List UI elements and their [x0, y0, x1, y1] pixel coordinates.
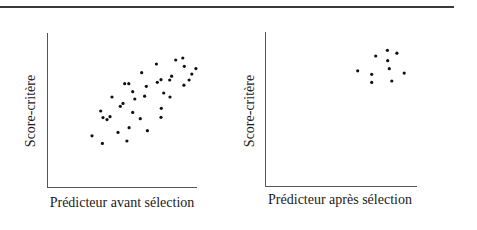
data-point [133, 97, 136, 100]
data-point [121, 102, 124, 105]
data-point [168, 78, 171, 81]
scatter-plot-before-selection [47, 33, 197, 188]
data-point [170, 75, 173, 78]
data-point [90, 134, 93, 137]
data-point [390, 79, 393, 82]
data-point [183, 65, 186, 68]
data-point [356, 69, 359, 72]
data-point [110, 95, 113, 98]
data-point [156, 81, 159, 84]
data-point [386, 49, 389, 52]
data-point [116, 131, 119, 134]
data-point [403, 72, 406, 75]
scatter-plot-after-selection [265, 32, 417, 187]
plot-area-after [265, 32, 417, 187]
y-axis-label-after: Score-critère [242, 75, 258, 147]
data-point [174, 58, 177, 61]
data-point [194, 67, 197, 70]
data-point [119, 105, 122, 108]
data-point [388, 67, 391, 70]
top-rule [0, 6, 454, 8]
data-point [101, 142, 104, 145]
data-point [370, 81, 373, 84]
data-point [105, 118, 108, 121]
data-point [131, 90, 134, 93]
data-point [190, 73, 193, 76]
data-point [127, 82, 130, 85]
data-point [128, 126, 131, 129]
data-point [162, 91, 165, 94]
data-point [182, 84, 185, 87]
data-point [159, 116, 162, 119]
data-point [139, 117, 142, 120]
data-point [159, 78, 162, 81]
x-axis-label-after: Prédicteur après sélection [268, 192, 412, 208]
data-point [181, 56, 184, 59]
data-point [370, 73, 373, 76]
data-point [395, 52, 398, 55]
data-point [125, 139, 128, 142]
data-point [155, 62, 158, 65]
data-point [143, 95, 146, 98]
data-points [356, 49, 406, 84]
y-axis-label-before: Score-critère [23, 75, 39, 147]
data-point [123, 82, 126, 85]
data-point [386, 59, 389, 62]
data-points [90, 56, 197, 145]
data-point [99, 109, 102, 112]
data-point [101, 116, 104, 119]
data-point [108, 115, 111, 118]
data-point [168, 95, 171, 98]
data-point [188, 78, 191, 81]
data-point [131, 111, 134, 114]
data-point [146, 129, 149, 132]
data-point [160, 107, 163, 110]
data-point [145, 85, 148, 88]
data-point [374, 54, 377, 57]
x-axis-label-before: Prédicteur avant sélection [50, 195, 195, 211]
plot-area-before [47, 33, 197, 188]
data-point [140, 71, 143, 74]
